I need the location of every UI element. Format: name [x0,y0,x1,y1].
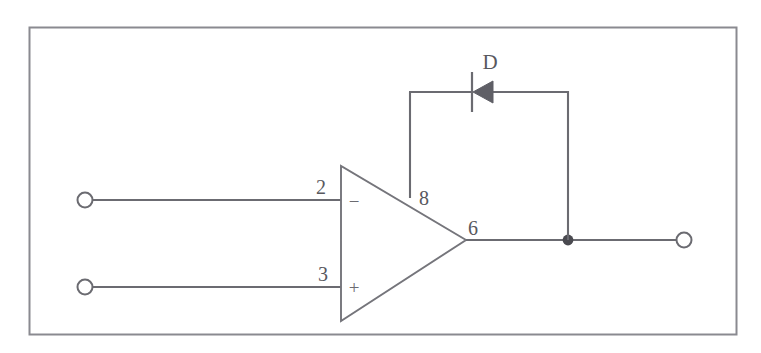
diode-symbol[interactable] [472,72,493,112]
pin-label-3: 3 [318,263,328,285]
output-terminal[interactable] [677,233,692,248]
circuit-diagram-figure: 2 3 8 6 D − + [0,0,761,353]
pin-label-8: 8 [419,187,429,209]
circuit-schematic-svg: 2 3 8 6 D − + [0,0,761,353]
figure-border [30,28,737,335]
diode-reference-label: D [482,50,497,74]
input-terminal-inverting[interactable] [78,193,93,208]
pin-label-6: 6 [468,217,478,239]
input-terminal-noninverting[interactable] [78,280,93,295]
diode-anode-triangle [473,81,493,103]
inverting-input-polarity-symbol: − [349,191,360,212]
pin-label-2: 2 [316,176,326,198]
noninverting-input-polarity-symbol: + [349,277,360,298]
opamp-triangle-body[interactable] [341,166,466,321]
